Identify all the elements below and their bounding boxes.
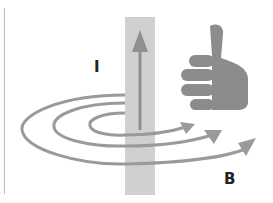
field-label: B	[224, 170, 235, 188]
field-loops-back	[22, 95, 125, 164]
current-label: I	[94, 58, 100, 76]
thumbs-up-icon	[181, 24, 248, 110]
